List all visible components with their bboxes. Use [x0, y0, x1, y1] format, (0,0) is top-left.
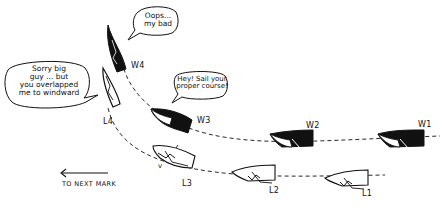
label-w2: W2 [306, 122, 320, 130]
boat-w1-icon [378, 130, 424, 150]
boat-l2-icon [232, 165, 275, 183]
label-l4: L4 [103, 118, 113, 126]
direction-caption: TO NEXT MARK [62, 180, 116, 188]
boat-w3-icon [151, 109, 192, 133]
boat-l4-icon [103, 68, 120, 107]
speech-bubble-l4: Sorry big guy ... but you overlapped me … [10, 65, 88, 97]
speech-bubble-w3: Hey! Sail your proper course! [176, 76, 228, 91]
leeward-track [108, 108, 385, 176]
boat-w2-icon [270, 130, 313, 150]
label-w4: W4 [131, 62, 145, 70]
boat-l1-icon [325, 170, 368, 189]
label-l3: L3 [182, 180, 192, 188]
label-w3: W3 [197, 117, 211, 125]
speech-bubble-w4: Oops... my bad [138, 12, 178, 28]
bubble-text-line: proper course! [176, 83, 228, 90]
label-l2: L2 [269, 187, 279, 195]
bubble-text-line: me to windward [10, 89, 88, 97]
bubble-text-line: my bad [138, 20, 178, 28]
windward-track [122, 62, 440, 142]
boat-w4-icon [108, 25, 126, 72]
left-arrow-icon [61, 169, 108, 177]
label-l1: L1 [362, 190, 372, 198]
diagram-drawing [0, 0, 440, 207]
label-w1: W1 [418, 121, 432, 129]
small-mark-v: v [158, 163, 162, 170]
sailing-rules-diagram: Oops... my bad Sorry big guy ... but you… [0, 0, 440, 207]
